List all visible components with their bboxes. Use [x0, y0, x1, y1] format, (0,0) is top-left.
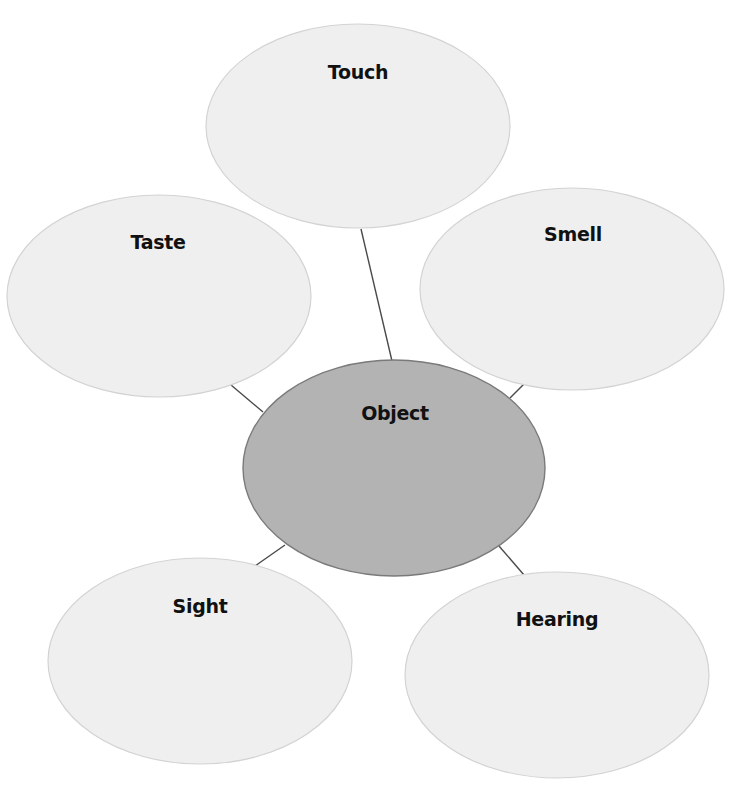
- smell-bubble[interactable]: [420, 188, 724, 390]
- touch-bubble[interactable]: [206, 24, 510, 228]
- sight-label: Sight: [173, 595, 228, 617]
- node-taste[interactable]: Taste: [7, 195, 311, 397]
- taste-bubble[interactable]: [7, 195, 311, 397]
- node-touch[interactable]: Touch: [206, 24, 510, 228]
- connector-smell-object: [510, 384, 524, 398]
- connector-sight-object: [255, 545, 285, 566]
- object-label: Object: [361, 402, 429, 424]
- senses-concept-web: Touch Taste Smell Sight Hearing Object: [0, 0, 733, 797]
- object-bubble[interactable]: [243, 360, 545, 576]
- connector-hearing-object: [499, 546, 524, 575]
- node-smell[interactable]: Smell: [420, 188, 724, 390]
- hearing-label: Hearing: [516, 608, 599, 630]
- sight-bubble[interactable]: [48, 558, 352, 764]
- smell-label: Smell: [544, 223, 602, 245]
- connector-taste-object: [231, 385, 263, 412]
- hearing-bubble[interactable]: [405, 572, 709, 778]
- node-hearing[interactable]: Hearing: [405, 572, 709, 778]
- taste-label: Taste: [130, 231, 185, 253]
- connector-touch-object: [361, 229, 392, 361]
- node-sight[interactable]: Sight: [48, 558, 352, 764]
- node-object-center[interactable]: Object: [243, 360, 545, 576]
- touch-label: Touch: [328, 61, 388, 83]
